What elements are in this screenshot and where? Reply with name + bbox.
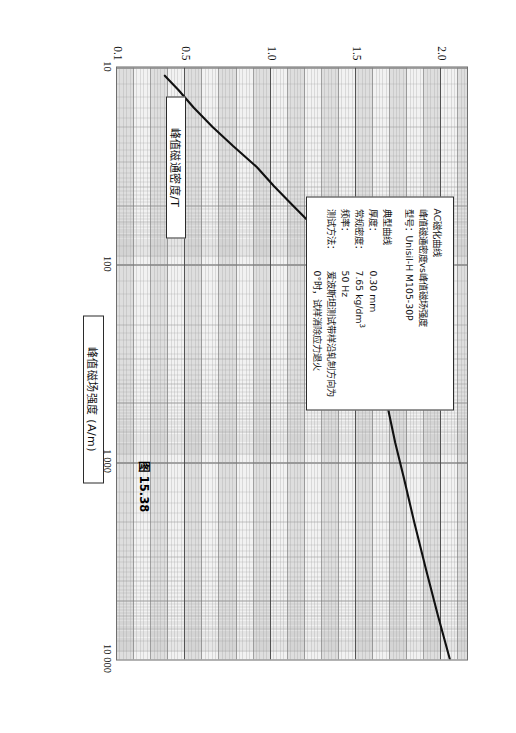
info-spec-key: 频率：: [338, 208, 352, 270]
info-spec-row: 厚度：0.30 mm: [366, 208, 380, 399]
y-tick-label: 1.0: [266, 32, 278, 60]
x-tick-label: 10 000: [102, 644, 113, 673]
info-spec-row: 频率：50 Hz: [338, 208, 352, 399]
info-spec-row: 常规密度：7.65 kg/dm3: [352, 208, 366, 399]
rotated-figure-stage: 101001 00010 000 0.10.51.01.52.0 峰值磁场强度 …: [0, 0, 516, 733]
info-model-value: Unisil-H M105-30P: [404, 235, 415, 320]
info-spec-superscript: 3: [358, 323, 366, 327]
x-tick-label: 100: [102, 255, 113, 271]
y-tick-label: 0.1: [112, 32, 124, 60]
y-tick-label: 0.5: [180, 32, 192, 60]
info-model-label: 型号：: [404, 208, 415, 235]
info-box: AC磁化曲线 峰值磁通密度vs峰值磁场强度 型号：Unisil-H M105-3…: [306, 196, 454, 410]
info-spec-key: 厚度：: [366, 208, 380, 270]
info-spacer: [394, 208, 401, 399]
info-spec-value: 爱波斯坦测试带样沿轧制方向为0°时，试样消除应力退火: [310, 270, 337, 399]
x-axis-title: 峰值磁场强度 (A/m): [83, 315, 104, 483]
info-model-line: 型号：Unisil-H M105-30P: [402, 208, 415, 399]
info-spec-value: 0.30 mm: [366, 270, 380, 399]
info-spec-value: 50 Hz: [338, 270, 352, 399]
x-tick-label: 10: [102, 61, 113, 72]
y-axis-title-text: 峰值磁通密度/T: [168, 127, 184, 207]
info-title-line1: AC磁化曲线: [431, 208, 444, 399]
info-spec-table: 厚度：0.30 mm常规密度：7.65 kg/dm3频率：50 Hz测试方法：爱…: [310, 208, 380, 399]
figure-caption-text: 图 15.38: [137, 460, 153, 511]
info-spec-key: 测试方法：: [310, 208, 337, 270]
y-axis-title: 峰值磁通密度/T: [166, 96, 186, 238]
info-subtitle: 典型曲线: [381, 208, 394, 399]
info-spec-key: 常规密度：: [352, 208, 366, 270]
info-title-line2: 峰值磁通密度vs峰值磁场强度: [417, 208, 430, 399]
y-tick-label: 1.5: [351, 32, 363, 60]
y-tick-label: 2.0: [436, 32, 448, 60]
x-axis-title-text: 峰值磁场强度 (A/m): [86, 347, 102, 452]
info-spec-value: 7.65 kg/dm3: [352, 270, 366, 399]
figure-caption: 图 15.38: [130, 456, 160, 516]
info-spec-row: 测试方法：爱波斯坦测试带样沿轧制方向为0°时，试样消除应力退火: [310, 208, 337, 399]
